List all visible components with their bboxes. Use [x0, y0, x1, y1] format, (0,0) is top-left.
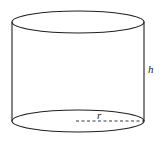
- cylinder-figure: h r: [0, 0, 163, 148]
- cylinder-drawing: [0, 0, 163, 148]
- radius-label: r: [97, 110, 101, 121]
- height-label: h: [148, 64, 154, 75]
- cylinder-top-base-ellipse: [12, 11, 144, 33]
